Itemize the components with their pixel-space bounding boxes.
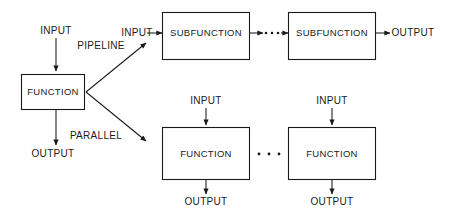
parallel-branch-2-input-label: INPUT	[316, 95, 348, 106]
parallel-ellipsis	[258, 153, 281, 156]
pipeline-input-label: INPUT	[121, 27, 153, 38]
diagram-canvas: INPUT FUNCTION OUTPUT PIPELINE PARALLEL …	[0, 0, 450, 221]
pipeline-stage-2-label: SUBFUNCTION	[296, 27, 368, 38]
parallel-branch-1-label: FUNCTION	[180, 148, 231, 159]
parallel-branch-label: PARALLEL	[70, 130, 122, 141]
parallel-branch-2-label: FUNCTION	[306, 148, 357, 159]
parallel-branch-1-output-label: OUTPUT	[185, 196, 228, 207]
pipeline-ellipsis	[265, 32, 280, 35]
source-input-label: INPUT	[40, 25, 72, 36]
source-output-label: OUTPUT	[32, 148, 75, 159]
diagram-svg: INPUT FUNCTION OUTPUT PIPELINE PARALLEL …	[0, 0, 450, 221]
parallel-branch-1-input-label: INPUT	[190, 95, 222, 106]
pipeline-stage-1-label: SUBFUNCTION	[170, 27, 242, 38]
pipeline-output-label: OUTPUT	[392, 27, 435, 38]
parallel-branch-2-output-label: OUTPUT	[311, 196, 354, 207]
source-function-label: FUNCTION	[27, 86, 78, 97]
pipeline-branch-label: PIPELINE	[77, 40, 124, 51]
